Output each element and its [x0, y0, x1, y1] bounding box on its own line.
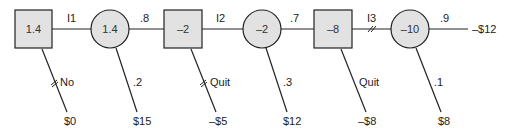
chance-node-1-value: 1.4 — [91, 23, 129, 35]
decision-node-3-value: –8 — [314, 23, 352, 35]
branch-label-i3: I3 — [367, 12, 376, 24]
chance-node-2-value: –2 — [243, 23, 281, 35]
branch-label-p02: .2 — [133, 76, 142, 88]
branch-label-p01: .1 — [434, 76, 443, 88]
payoff-c1: $15 — [133, 115, 151, 127]
payoff-c3: $8 — [438, 115, 450, 127]
decision-node-2-value: –2 — [164, 23, 202, 35]
branch-label-p08: .8 — [140, 12, 149, 24]
payoff-c2: $12 — [283, 115, 301, 127]
branch-label-quit-2: Quit — [359, 76, 379, 88]
branch-label-p03: .3 — [283, 76, 292, 88]
branch-label-i1: I1 — [67, 12, 76, 24]
chance-node-3-value: –10 — [391, 23, 429, 35]
payoff-no: $0 — [64, 115, 76, 127]
decision-tree-lines — [0, 0, 513, 136]
branch-label-quit-1: Quit — [210, 76, 230, 88]
payoff-final: –$12 — [472, 23, 496, 35]
branch-label-p09: .9 — [440, 12, 449, 24]
decision-node-1-value: 1.4 — [15, 23, 52, 35]
branch-label-no: No — [60, 76, 74, 88]
branch-label-i2: I2 — [216, 12, 225, 24]
payoff-quit-1: –$5 — [209, 115, 227, 127]
branch-label-p07: .7 — [290, 12, 299, 24]
payoff-quit-2: –$8 — [358, 115, 376, 127]
